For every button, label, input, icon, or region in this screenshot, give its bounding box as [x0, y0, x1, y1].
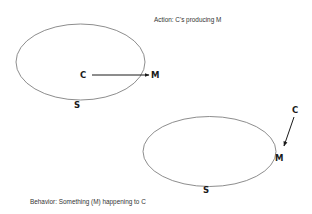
system-ellipse [143, 117, 276, 187]
arrow-icon [284, 117, 294, 146]
effect-label: M [275, 153, 283, 163]
effect-label: M [151, 70, 159, 80]
action-caption: Action: C's producing M [154, 16, 221, 24]
cause-label: C [80, 70, 86, 80]
system-label: S [203, 185, 209, 195]
cause-label: C [292, 105, 298, 115]
action-behavior-diagram: Action: C's producing M C M S Behavior: … [0, 0, 312, 214]
behavior-diagram: Behavior: Something (M) happening to C C… [30, 105, 298, 206]
system-ellipse [16, 24, 145, 100]
action-diagram: Action: C's producing M C M S [16, 16, 221, 110]
system-label: S [74, 100, 80, 110]
behavior-caption: Behavior: Something (M) happening to C [30, 198, 146, 206]
